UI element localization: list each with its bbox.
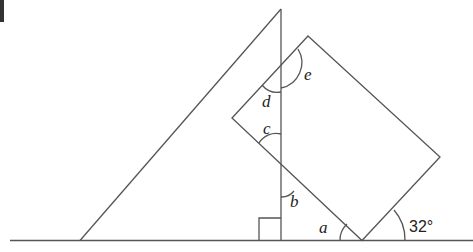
label-b: b xyxy=(290,192,299,211)
triangle-hypotenuse xyxy=(80,9,281,241)
right-angle-mark xyxy=(259,218,281,241)
angle-arc-a xyxy=(340,224,347,241)
angle-arc-32 xyxy=(394,210,405,241)
label-c: c xyxy=(263,119,271,138)
label-e: e xyxy=(304,65,312,84)
label-d: d xyxy=(262,92,271,111)
label-a: a xyxy=(319,218,328,237)
geometry-diagram: b a c d e 32° xyxy=(0,0,473,252)
label-32-degrees: 32° xyxy=(409,218,433,235)
